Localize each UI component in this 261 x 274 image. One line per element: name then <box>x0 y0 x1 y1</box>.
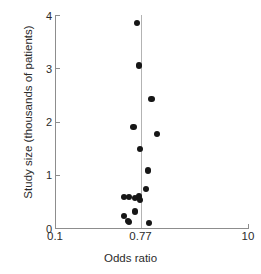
data-point <box>148 96 154 102</box>
y-tick-label: 1 <box>46 170 52 181</box>
x-tick-label: 0.77 <box>129 231 151 243</box>
y-tick-label: 3 <box>46 63 52 74</box>
data-point <box>130 124 136 130</box>
y-axis-title: Study size (thousands of patients) <box>22 12 34 212</box>
data-point <box>145 167 151 173</box>
x-tick-label: 10 <box>242 231 255 243</box>
data-point <box>136 62 142 68</box>
data-point <box>132 208 138 214</box>
x-axis-title: Odds ratio <box>0 252 261 264</box>
x-tick <box>248 224 249 229</box>
y-tick-label: 4 <box>46 10 52 21</box>
plot-area <box>55 15 248 228</box>
funnel-plot-figure: 01234 0.10.7710 Study size (thousands of… <box>0 0 261 274</box>
data-point <box>146 220 152 226</box>
data-point <box>137 197 143 203</box>
y-tick-label: 2 <box>46 117 52 128</box>
x-tick-label: 0.1 <box>47 231 63 243</box>
x-axis-line <box>55 228 249 229</box>
